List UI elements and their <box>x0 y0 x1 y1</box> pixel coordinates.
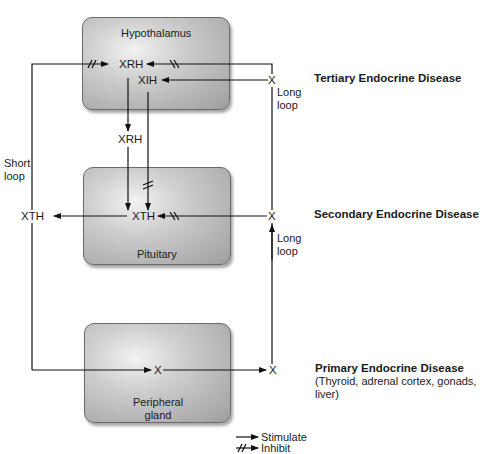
long-loop-top-line1: Long <box>277 86 301 99</box>
intermediate-xrh: XRH <box>118 133 142 146</box>
secondary-disease-label: Secondary Endocrine Disease <box>314 208 479 221</box>
hypothalamus-label: Hypothalamus <box>121 27 191 40</box>
right-x-bottom: X <box>269 364 277 377</box>
right-x-top: X <box>268 74 276 87</box>
long-loop-mid-line2: loop <box>277 245 301 258</box>
short-loop-line2: loop <box>4 170 30 183</box>
primary-disease-note-line2: liver) <box>315 388 476 401</box>
peripheral-label-line2: gland <box>133 409 183 422</box>
right-x-mid: X <box>268 210 276 223</box>
legend-inhibit: Inhibit <box>261 442 290 454</box>
primary-disease-label: Primary Endocrine Disease <box>315 362 476 375</box>
short-loop-label: Short loop <box>4 157 30 183</box>
peripheral-label-line1: Peripheral <box>133 396 183 409</box>
primary-disease-block: Primary Endocrine Disease (Thyroid, adre… <box>315 362 476 401</box>
left-xth: XTH <box>21 210 44 223</box>
primary-disease-note-line1: (Thyroid, adrenal cortex, gonads, <box>315 375 476 388</box>
tertiary-disease-label: Tertiary Endocrine Disease <box>314 72 461 85</box>
peripheral-x: X <box>154 364 162 377</box>
long-loop-top-label: Long loop <box>277 86 301 112</box>
pituitary-xth: XTH <box>132 210 155 223</box>
pituitary-label: Pituitary <box>137 248 177 261</box>
hypothalamus-xih: XIH <box>138 74 157 87</box>
long-loop-mid-line1: Long <box>277 232 301 245</box>
long-loop-mid-label: Long loop <box>277 232 301 258</box>
hypothalamus-xrh: XRH <box>119 58 143 71</box>
long-loop-top-line2: loop <box>277 99 301 112</box>
peripheral-gland-label: Peripheral gland <box>133 396 183 422</box>
short-loop-line1: Short <box>4 157 30 170</box>
